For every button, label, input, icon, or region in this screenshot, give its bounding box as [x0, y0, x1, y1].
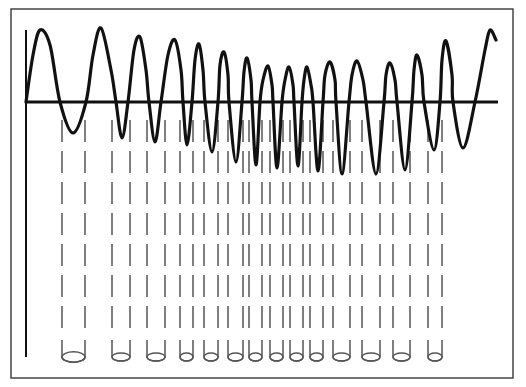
- tube-cylinder: [147, 340, 165, 361]
- tube-base-ellipse: [362, 353, 380, 361]
- dashed-guide-lines: [62, 120, 442, 336]
- tube-cylinder: [270, 340, 283, 361]
- tube-base-ellipse: [270, 353, 283, 361]
- tube-cylinder: [428, 340, 442, 361]
- tube-cylinder: [362, 340, 380, 361]
- tube-base-ellipse: [112, 353, 130, 361]
- tube-base-ellipse: [180, 353, 193, 361]
- tube-cylinder: [393, 340, 410, 361]
- tube-cylinder: [112, 340, 130, 361]
- tube-base-ellipse: [147, 353, 165, 361]
- tube-cylinder: [333, 340, 350, 361]
- tube-cylinders: [62, 340, 442, 362]
- tube-base-ellipse: [393, 353, 410, 361]
- tube-cylinder: [290, 340, 303, 361]
- tube-cylinder: [249, 340, 262, 361]
- tube-cylinder: [180, 340, 193, 361]
- tube-cylinder: [204, 340, 218, 361]
- tube-base-ellipse: [62, 352, 85, 362]
- tube-base-ellipse: [204, 353, 218, 361]
- tube-base-ellipse: [228, 353, 243, 361]
- wave-diagram: [0, 0, 526, 387]
- tube-base-ellipse: [310, 353, 323, 361]
- tube-base-ellipse: [428, 353, 442, 361]
- tube-base-ellipse: [290, 353, 303, 361]
- tube-base-ellipse: [249, 353, 262, 361]
- tube-cylinder: [310, 340, 323, 361]
- tube-base-ellipse: [333, 353, 350, 361]
- tube-cylinder: [228, 340, 243, 361]
